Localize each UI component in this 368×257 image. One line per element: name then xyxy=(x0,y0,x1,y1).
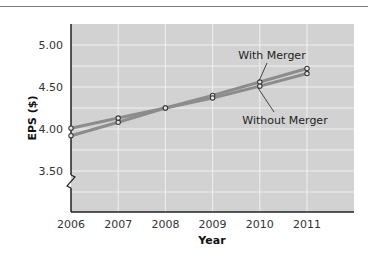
annotation-without-merger: Without Merger xyxy=(242,114,328,127)
x-axis-title: Year xyxy=(197,234,226,247)
x-tick-label: 2011 xyxy=(293,218,321,231)
annotation-with-merger: With Merger xyxy=(238,49,306,62)
y-axis-ticks: 5.004.504.003.50 xyxy=(39,39,64,178)
data-point-marker xyxy=(163,106,167,110)
y-tick-label: 4.50 xyxy=(39,81,64,94)
data-point-marker xyxy=(305,71,309,75)
y-axis-title: EPS ($) xyxy=(26,95,39,140)
data-point-marker xyxy=(69,134,73,138)
x-axis-ticks: 200620072008200920102011 xyxy=(57,218,321,231)
x-tick-label: 2006 xyxy=(57,218,85,231)
x-tick-label: 2008 xyxy=(151,218,179,231)
eps-chart: 5.004.504.003.50 20062007200820092010201… xyxy=(0,0,368,257)
x-tick-label: 2007 xyxy=(104,218,132,231)
data-point-marker xyxy=(305,66,309,70)
y-tick-label: 3.50 xyxy=(39,165,64,178)
data-point-marker xyxy=(210,96,214,100)
data-point-marker xyxy=(69,126,73,130)
data-point-marker xyxy=(116,116,120,120)
y-tick-label: 5.00 xyxy=(39,39,64,52)
data-point-marker xyxy=(258,84,262,88)
x-tick-label: 2009 xyxy=(199,218,227,231)
x-tick-label: 2010 xyxy=(246,218,274,231)
y-tick-label: 4.00 xyxy=(39,123,64,136)
